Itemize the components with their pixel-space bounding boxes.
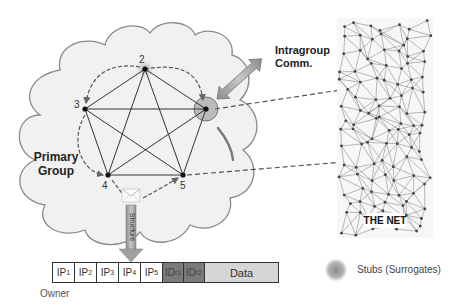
packet-cell-id-r2: IDr2 bbox=[184, 263, 205, 282]
primary-group-label: Primary Group bbox=[31, 150, 81, 178]
node-1 bbox=[203, 106, 208, 111]
primary-group-label-line1: Primary bbox=[31, 150, 81, 164]
owner-label: Owner bbox=[40, 288, 69, 299]
packet-cell-data: Data bbox=[205, 263, 278, 282]
node-label-4: 4 bbox=[102, 180, 108, 191]
diagram-canvas: 2 3 4 5 Primary Group Intragroup Comm. S… bbox=[0, 0, 456, 308]
packet-cell-ip1: IP1 bbox=[53, 263, 75, 282]
node-5 bbox=[180, 172, 185, 177]
the-net-label: THE NET bbox=[363, 213, 407, 228]
legend-stub-icon bbox=[325, 259, 347, 281]
intragroup-comm-label: Intragroup Comm. bbox=[275, 44, 330, 70]
packet-structure: IP1 IP2 IP3 IP4 IP5 IDr1 IDr2 Data bbox=[52, 262, 279, 283]
legend-stub-label: Stubs (Surrogates) bbox=[357, 264, 441, 275]
node-label-5: 5 bbox=[180, 180, 186, 191]
packet-cell-ip3: IP3 bbox=[97, 263, 119, 282]
envelope-icon bbox=[122, 189, 140, 202]
node-label-2: 2 bbox=[139, 54, 145, 65]
node-label-3: 3 bbox=[74, 99, 80, 110]
packet-cell-id-r1: IDr1 bbox=[163, 263, 184, 282]
primary-group-label-line2: Group bbox=[31, 164, 81, 178]
packet-cell-ip4: IP4 bbox=[119, 263, 141, 282]
intragroup-comm-label-line1: Intragroup bbox=[275, 44, 330, 57]
structure-label: Structure bbox=[126, 209, 136, 245]
packet-cell-ip5: IP5 bbox=[141, 263, 163, 282]
packet-cell-ip2: IP2 bbox=[75, 263, 97, 282]
node-3 bbox=[82, 106, 87, 111]
the-net-mesh bbox=[337, 18, 433, 238]
node-4 bbox=[105, 172, 110, 177]
node-2 bbox=[142, 66, 147, 71]
intragroup-comm-label-line2: Comm. bbox=[275, 57, 330, 70]
